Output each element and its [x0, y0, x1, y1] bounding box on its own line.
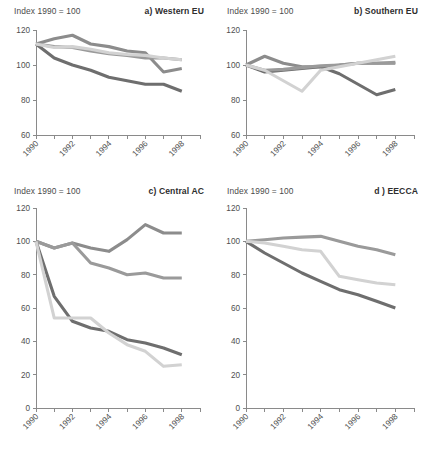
y-tick-label: 100: [226, 61, 240, 70]
y-tick-label: 100: [16, 237, 30, 246]
y-tick-label: 20: [231, 371, 241, 380]
panel-c-plot: 02040608010012019901992199419961998Energ…: [0, 180, 213, 458]
y-tick-label: 100: [16, 61, 30, 70]
y-tick-label: 60: [21, 304, 31, 313]
y-tick-label: 60: [21, 131, 31, 140]
y-tick-label: 40: [231, 337, 241, 346]
y-tick-label: 40: [21, 337, 31, 346]
series-line-urban: [36, 241, 182, 278]
y-tick-label: 80: [231, 96, 241, 105]
y-tick-label: 60: [231, 304, 241, 313]
panel-b-plot: 608010012019901992199419961998: [213, 0, 427, 180]
x-tick-label: 1992: [58, 139, 78, 159]
x-tick-label: 1996: [343, 139, 363, 159]
y-tick-label: 80: [21, 271, 31, 280]
x-tick-label: 1998: [167, 412, 187, 432]
x-tick-label: 1992: [269, 139, 289, 159]
x-tick-label: 1998: [381, 412, 401, 432]
y-tick-label: 80: [21, 96, 31, 105]
x-tick-label: 1998: [381, 139, 401, 159]
series-line-agriculture: [246, 56, 395, 91]
x-tick-label: 1990: [231, 412, 251, 432]
series-line-industry: [36, 241, 182, 354]
x-tick-label: 1992: [269, 412, 289, 432]
panel-b-southern-eu: Index 1990 = 100 b) Southern EU 60801001…: [213, 0, 427, 180]
x-tick-label: 1994: [306, 412, 326, 432]
y-tick-label: 100: [226, 237, 240, 246]
y-tick-label: 120: [16, 26, 30, 35]
panel-d-plot: 02040608010012019901992199419961998Indus…: [213, 180, 427, 458]
x-tick-label: 1990: [21, 139, 41, 159]
x-tick-label: 1996: [131, 412, 151, 432]
y-tick-label: 0: [25, 404, 30, 413]
panel-c-central-ac: Index 1990 = 100 c) Central AC 020406080…: [0, 180, 213, 458]
x-tick-label: 1990: [231, 139, 251, 159]
y-tick-label: 120: [226, 204, 240, 213]
x-tick-label: 1994: [94, 412, 114, 432]
x-tick-label: 1996: [131, 139, 151, 159]
panel-a-western-eu: Index 1990 = 100 a) Western EU 608010012…: [0, 0, 213, 180]
x-tick-label: 1992: [58, 412, 78, 432]
x-tick-label: 1998: [167, 139, 187, 159]
x-tick-label: 1990: [21, 412, 41, 432]
y-tick-label: 120: [226, 26, 240, 35]
x-tick-label: 1994: [306, 139, 326, 159]
y-tick-label: 20: [21, 371, 31, 380]
panel-a-plot: 608010012019901992199419961998: [0, 0, 213, 180]
y-tick-label: 0: [235, 404, 240, 413]
y-tick-label: 60: [231, 131, 241, 140]
y-tick-label: 120: [16, 204, 30, 213]
y-tick-label: 80: [231, 271, 241, 280]
four-panel-line-chart-figure: Index 1990 = 100 a) Western EU 608010012…: [0, 0, 427, 458]
x-tick-label: 1996: [343, 412, 363, 432]
x-tick-label: 1994: [94, 139, 114, 159]
panel-d-eecca: Index 1990 = 100 d ) EECCA 0204060801001…: [213, 180, 427, 458]
